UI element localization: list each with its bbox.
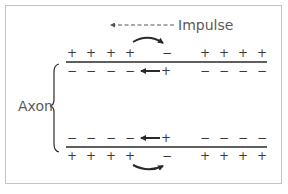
sign: + xyxy=(257,46,267,60)
bottom-outside-signs: + + + + − + + + + xyxy=(67,149,267,163)
curved-arrow-icon xyxy=(133,38,163,43)
sign: + xyxy=(67,149,77,163)
sign: + xyxy=(238,46,248,60)
sign: + xyxy=(200,149,210,163)
sign: + xyxy=(67,46,77,60)
sign: − xyxy=(67,64,77,78)
sign: + xyxy=(257,149,267,163)
sign: − xyxy=(219,131,229,145)
sign: − xyxy=(219,64,229,78)
sign: − xyxy=(106,64,116,78)
sign: − xyxy=(106,131,116,145)
sign: − xyxy=(238,131,248,145)
sign: − xyxy=(200,131,210,145)
sign: − xyxy=(86,64,96,78)
sign: + xyxy=(161,131,171,145)
sign: − xyxy=(162,46,172,60)
top-inside-signs: − − − − + − − − − xyxy=(67,64,267,78)
sign: − xyxy=(238,64,248,78)
sign: + xyxy=(125,149,135,163)
sign: − xyxy=(200,64,210,78)
top-outside-signs: + + + + − + + + + xyxy=(67,46,267,60)
sign: − xyxy=(257,131,267,145)
axon-diagram: Impulse + + + + − + + + + − − − − + − − … xyxy=(0,0,288,194)
sign: + xyxy=(238,149,248,163)
sign: + xyxy=(106,46,116,60)
sign: − xyxy=(86,131,96,145)
bottom-membrane: − − − − + − − − − + + + + − + + + + xyxy=(66,131,267,169)
top-membrane: + + + + − + + + + − − − − + − − − − xyxy=(66,38,267,78)
sign: − xyxy=(257,64,267,78)
sign: + xyxy=(219,149,229,163)
sign: + xyxy=(125,46,135,60)
sign: + xyxy=(106,149,116,163)
sign: − xyxy=(125,64,135,78)
sign: + xyxy=(86,46,96,60)
sign: + xyxy=(161,64,171,78)
curved-arrow-icon xyxy=(133,165,163,169)
bottom-inside-signs: − − − − + − − − − xyxy=(67,131,267,145)
sign: + xyxy=(86,149,96,163)
impulse-label: Impulse xyxy=(178,17,233,33)
sign: + xyxy=(200,46,210,60)
sign: − xyxy=(162,149,172,163)
sign: − xyxy=(67,131,77,145)
sign: + xyxy=(219,46,229,60)
axon-label: Axon xyxy=(18,98,53,114)
sign: − xyxy=(125,131,135,145)
